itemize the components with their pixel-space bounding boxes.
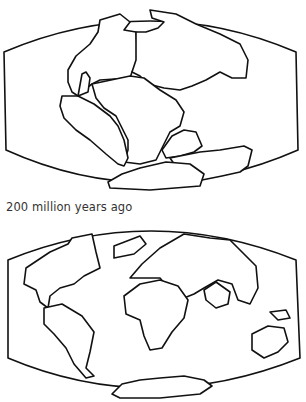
pangaea-map	[0, 0, 306, 195]
modern-map	[0, 208, 306, 402]
